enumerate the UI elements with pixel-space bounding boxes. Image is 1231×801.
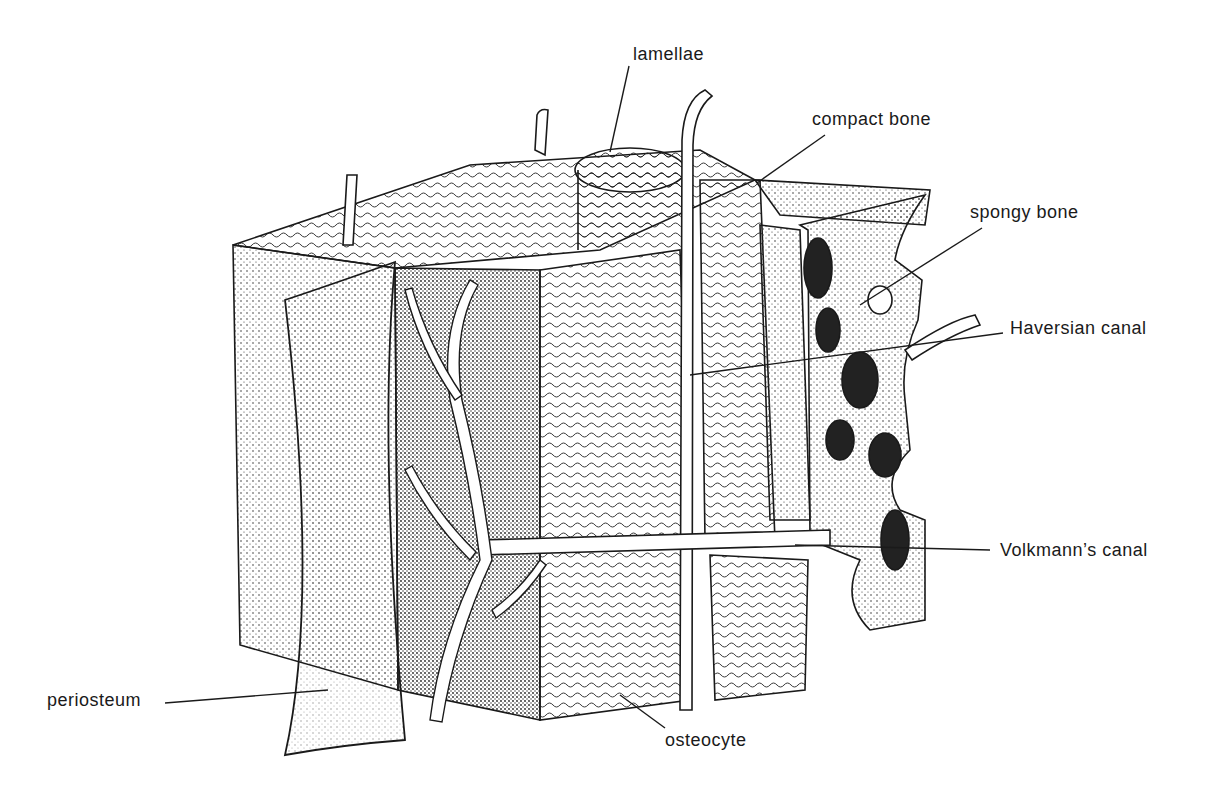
label-compact-bone: compact bone — [812, 109, 931, 130]
spongy-bone — [800, 195, 925, 630]
bone-diagram: lamellae compact bone spongy bone Havers… — [0, 0, 1231, 801]
bone-illustration — [0, 0, 1231, 801]
label-haversian-canal: Haversian canal — [1010, 318, 1147, 339]
periosteum — [285, 262, 405, 755]
label-periosteum: periosteum — [47, 690, 141, 711]
label-spongy-bone: spongy bone — [970, 202, 1079, 223]
leader-compact-bone — [757, 135, 825, 183]
label-osteocyte: osteocyte — [665, 730, 747, 751]
leader-lamellae — [610, 66, 629, 152]
label-volkmanns-canal: Volkmann’s canal — [1000, 540, 1148, 561]
label-lamellae: lamellae — [633, 44, 704, 65]
